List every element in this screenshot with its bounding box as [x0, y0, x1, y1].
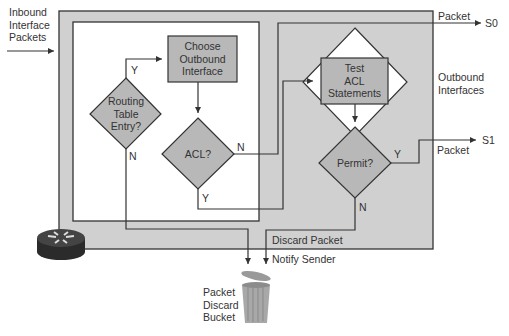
outbound-interfaces-label: Outbound Interfaces [438, 71, 484, 96]
router-icon [37, 229, 85, 260]
packet-discard-bucket-label: Packet Discard Bucket [203, 286, 239, 324]
notify-sender-label: Notify Sender [272, 253, 336, 266]
acl-no-label: N [237, 141, 245, 154]
test-acl-label: Test ACL Statements [321, 60, 388, 102]
routing-no-label: N [129, 150, 137, 163]
acl-yes-label: Y [202, 192, 209, 205]
s1-label: S1 [482, 134, 495, 147]
permit-yes-label: Y [394, 148, 401, 161]
discard-packet-label: Discard Packet [272, 234, 343, 247]
packet-s1-label: Packet [437, 144, 469, 157]
packet-s0-label: Packet [438, 10, 470, 23]
inbound-label: Inbound Interface Packets [9, 6, 50, 44]
permit-no-label: N [359, 201, 367, 214]
s0-label: S0 [485, 17, 498, 30]
flowchart-canvas [0, 0, 509, 336]
routing-yes-label: Y [131, 64, 138, 77]
permit-label: Permit? [325, 156, 385, 170]
acl-label: ACL? [170, 147, 226, 161]
choose-outbound-label: Choose Outbound Interface [168, 38, 237, 80]
routing-table-label: Routing Table Entry? [96, 95, 156, 133]
trash-can-icon [240, 269, 271, 323]
